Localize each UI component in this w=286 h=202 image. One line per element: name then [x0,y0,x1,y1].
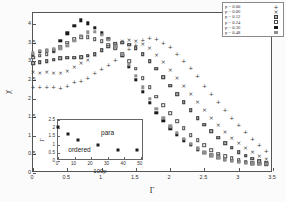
data-point: × [209,115,214,121]
data-point: + [58,85,63,91]
data-point: × [229,135,234,141]
data-point [107,45,111,49]
inset-y-tick [58,153,60,154]
inset-x-tick-label: 50 [137,161,142,166]
data-point [155,111,158,114]
data-point: × [44,69,49,75]
data-point: × [154,52,159,58]
data-point [223,158,226,161]
x-tick-label: 2 [168,174,171,180]
data-point [148,60,152,64]
data-point [175,133,178,136]
data-point [182,139,185,142]
data-point [134,74,137,77]
data-point [237,160,240,163]
data-point [107,37,110,40]
data-point [148,97,151,100]
inset-plot-area: paraordered [57,119,143,160]
data-point: × [92,52,97,58]
data-point [100,39,104,43]
data-point [79,35,83,39]
data-point [189,109,193,113]
data-point [86,31,89,34]
y-tick-label: 1 [28,132,31,138]
data-point [168,127,171,130]
data-point [223,141,227,145]
inset-data-point [96,144,99,147]
data-point: + [168,44,173,50]
data-point [216,152,220,156]
data-point: × [99,47,104,53]
data-point [31,53,34,56]
y-tick-label: 0 [28,169,31,175]
data-point [52,58,56,62]
data-point [72,56,76,60]
x-tick [170,168,171,171]
inset-x-tick [124,157,125,159]
data-point [65,41,69,45]
y-axis-title: χ [3,90,12,94]
data-point [244,154,248,158]
data-point: + [250,136,255,142]
y-tick-label: 4 [28,20,31,26]
data-point: + [236,122,241,128]
x-tick-label: 3 [236,174,239,180]
data-point [45,52,49,56]
data-point: + [72,79,77,85]
data-point: × [236,140,241,146]
x-tick [273,168,274,171]
data-point: × [85,57,90,63]
data-point [155,107,158,110]
data-point: + [222,107,227,113]
data-point: + [161,40,166,46]
y-tick-label: 3.5 [28,39,36,45]
data-point [141,86,144,89]
inset-x-tick-label: 30 [104,161,109,166]
data-point [65,56,69,60]
data-point [155,95,159,99]
data-point [100,32,103,35]
data-point: × [264,156,269,162]
data-point [189,142,192,145]
data-point: × [140,41,145,47]
data-point [223,154,227,158]
data-point: + [257,142,262,148]
y-tick [33,136,36,137]
data-point: × [161,59,166,65]
data-point: + [181,58,186,64]
data-point: + [154,36,159,42]
inset-y-tick [58,145,60,146]
data-point [86,35,90,39]
data-point: + [126,46,131,52]
y-tick-label: 2.5 [28,76,36,82]
data-point [244,161,247,164]
data-point [251,157,255,161]
data-point: × [58,70,63,76]
data-point [127,43,131,47]
data-point [134,67,138,71]
inset-data-point [76,138,79,141]
data-point [86,22,89,25]
data-point [230,159,233,162]
data-point: + [174,51,179,57]
data-point: + [188,65,193,71]
data-point [182,101,186,105]
inset-data-point [116,148,119,151]
marker-glyph [274,15,278,19]
data-point [223,158,226,161]
data-point: × [174,75,179,81]
data-point: + [51,84,56,90]
data-point [38,54,42,58]
data-point: + [44,84,49,90]
data-point [52,49,55,52]
data-point [237,150,241,154]
data-point [72,24,75,27]
data-point [120,54,123,57]
data-point [230,146,234,150]
x-tick-label: 1 [99,174,102,180]
marker-glyph [274,31,277,34]
inset-x-tick-label: 10 [71,161,76,166]
marker-glyph [274,26,277,29]
data-point [161,103,165,107]
data-point [127,63,130,66]
